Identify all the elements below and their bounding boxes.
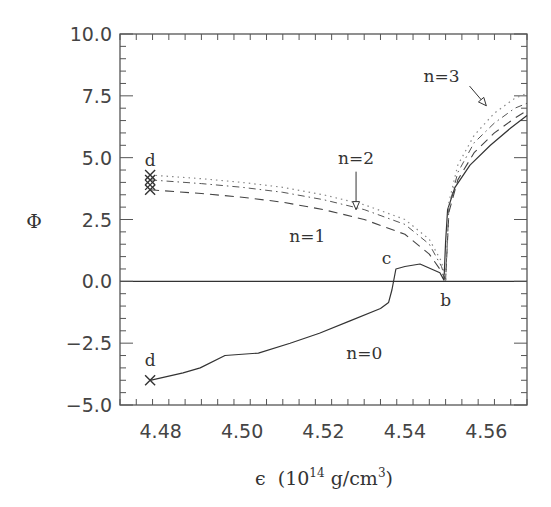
x-tick-label: 4.48 xyxy=(140,420,182,442)
chart: 4.484.504.524.544.5610.07.55.02.50.0−2.5… xyxy=(0,0,551,507)
annotation-label: n=3 xyxy=(424,66,460,86)
x-tick-label: 4.52 xyxy=(302,420,344,442)
x-marker-icon xyxy=(145,375,155,385)
axis-ticks xyxy=(120,34,527,405)
arrowhead-icon xyxy=(353,202,360,210)
x-axis-unit: g/cm xyxy=(325,467,378,489)
x-axis-open: (10 xyxy=(278,467,310,489)
annotation-label: d xyxy=(145,150,156,170)
x-axis-close: ) xyxy=(386,467,393,489)
x-tick-label: 4.50 xyxy=(221,420,263,442)
plot-frame xyxy=(120,34,527,405)
annotation-label: n=1 xyxy=(289,226,325,246)
series-n-1 xyxy=(150,111,527,280)
y-tick-label: −2.5 xyxy=(66,332,112,354)
x-axis-symbol: ϵ xyxy=(255,467,266,489)
series-n-2 xyxy=(150,103,527,280)
y-tick-label: 5.0 xyxy=(82,147,112,169)
annotation-label: d xyxy=(145,350,156,370)
series-n-3 xyxy=(150,93,527,280)
x-tick-label: 4.56 xyxy=(465,420,507,442)
y-tick-label: 7.5 xyxy=(82,85,112,107)
y-axis-title: Φ xyxy=(26,210,42,232)
y-tick-label: 10.0 xyxy=(70,23,112,45)
annotation-label: n=0 xyxy=(346,343,382,363)
series-lines xyxy=(150,93,527,380)
annotation-label: n=2 xyxy=(338,148,374,168)
x-marker-icon xyxy=(145,170,155,180)
y-tick-label: 2.5 xyxy=(82,209,112,231)
plot-border xyxy=(120,34,527,405)
y-tick-label: 0.0 xyxy=(82,270,112,292)
y-tick-label: −5.0 xyxy=(66,394,112,416)
x-axis-exponent: 14 xyxy=(309,466,325,480)
x-axis-title: ϵ (1014 g/cm3) xyxy=(255,466,393,489)
annotation-label: b xyxy=(440,290,451,310)
annotations: n=3n=2n=1n=0cbdd xyxy=(145,66,487,370)
x-marker-icon xyxy=(145,180,155,190)
annotation-label: c xyxy=(382,248,392,268)
x-tick-label: 4.54 xyxy=(384,420,426,442)
x-axis-unit-exponent: 3 xyxy=(378,466,386,480)
